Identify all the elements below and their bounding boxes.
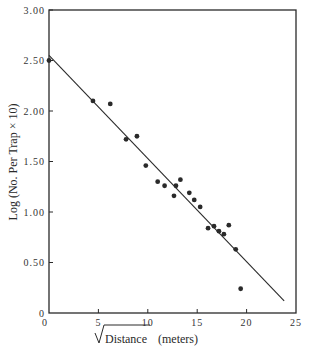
data-point [192,197,197,202]
plot-border [49,10,296,313]
x-axis-title-units: (meters) [158,332,198,346]
y-axis-title: Log (No. Per Trap × 10) [6,104,20,221]
data-point [226,223,231,228]
y-tick-label: 2.50 [24,55,46,66]
data-point [162,183,167,188]
x-tick-label: 10 [142,317,154,328]
y-tick-label: 1.00 [24,207,46,218]
y-tick-label: 3.00 [24,5,46,16]
x-axis-title: Distance (meters) [95,325,198,346]
data-point [206,226,211,231]
data-point [143,163,148,168]
x-tick-label: 25 [290,317,302,328]
data-point [108,102,113,107]
x-tick-label: 15 [191,317,203,328]
data-point [233,247,238,252]
data-points [47,58,243,291]
x-tick-label: 5 [95,317,101,328]
y-tick-label: 1.50 [24,156,46,167]
data-point [212,224,217,229]
data-point [172,193,177,198]
data-point [47,58,52,63]
data-point [178,177,183,182]
data-point [155,179,160,184]
plot-frame [49,10,296,313]
data-point [174,183,179,188]
scatter-chart: 00.501.001.502.002.503.00 0510152025 Log… [0,0,310,355]
data-point [91,99,96,104]
data-point [135,134,140,139]
y-tick-label: 0.50 [24,257,46,268]
data-point [221,232,226,237]
x-tick-label: 20 [241,317,253,328]
data-point [217,229,222,234]
regression-line [49,55,284,300]
data-point [198,205,203,210]
y-tick-label: 2.00 [24,106,46,117]
data-point [187,190,192,195]
fit-line [49,55,284,300]
x-tick-label: 0 [42,317,48,328]
x-axis-ticks: 0510152025 [42,309,302,328]
data-point [238,286,243,291]
data-point [124,137,129,142]
x-axis-title-radicand: Distance [105,332,147,346]
